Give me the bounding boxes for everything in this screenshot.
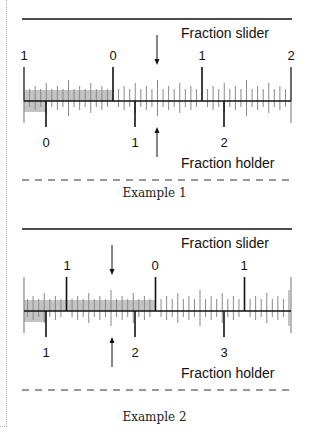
fraction-slider-label: Fraction slider	[181, 25, 269, 41]
example-1-figure: Fraction slider1012012Fraction holder Ex…	[0, 0, 309, 215]
holder-number-label: 0	[42, 135, 49, 150]
example-2-figure: Fraction slider101123Fraction holder Exa…	[0, 222, 309, 438]
slider-shaded-region	[24, 300, 155, 311]
fraction-holder-label: Fraction holder	[181, 365, 275, 381]
holder-number-label: 3	[220, 345, 227, 360]
holder-number-label: 2	[131, 345, 138, 360]
fraction-holder-label: Fraction holder	[181, 155, 275, 171]
slider-number-label: 0	[109, 48, 116, 63]
down-arrow-icon	[155, 59, 160, 65]
fraction-ruler-diagram-1: Fraction slider1012012Fraction holder	[0, 0, 309, 215]
slider-number-label: 0	[151, 258, 158, 273]
up-arrow-icon	[110, 337, 115, 343]
down-arrow-icon	[110, 269, 115, 275]
holder-number-label: 1	[42, 345, 49, 360]
fraction-slider-label: Fraction slider	[181, 235, 269, 251]
holder-number-label: 1	[131, 135, 138, 150]
slider-number-label: 1	[198, 48, 205, 63]
fraction-ruler-diagram-2: Fraction slider101123Fraction holder	[0, 222, 309, 438]
slider-number-label: 1	[20, 48, 27, 63]
slider-number-label: 1	[240, 258, 247, 273]
example-caption: Example 1	[0, 186, 309, 200]
slider-number-label: 2	[287, 48, 294, 63]
up-arrow-icon	[155, 127, 160, 133]
holder-number-label: 2	[220, 135, 227, 150]
slider-number-label: 1	[63, 258, 70, 273]
example-caption: Example 2	[0, 410, 309, 424]
